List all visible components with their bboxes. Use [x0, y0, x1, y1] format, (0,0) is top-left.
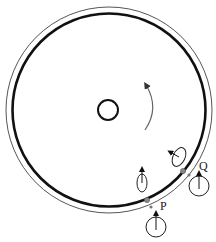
- point-q-dot-disc: [180, 168, 185, 173]
- point-q-dot-ring: [187, 173, 190, 176]
- point-p-dot-disc: [144, 197, 149, 202]
- disc-diagram: P Q: [0, 0, 216, 242]
- center-hole: [98, 100, 118, 120]
- thick-disc-ring: [13, 14, 206, 207]
- outer-thin-ring: [6, 7, 212, 213]
- rotation-arrow: [145, 85, 153, 130]
- point-p-dot-ring: [149, 205, 152, 208]
- label-p: P: [160, 199, 167, 213]
- label-q: Q: [199, 159, 208, 173]
